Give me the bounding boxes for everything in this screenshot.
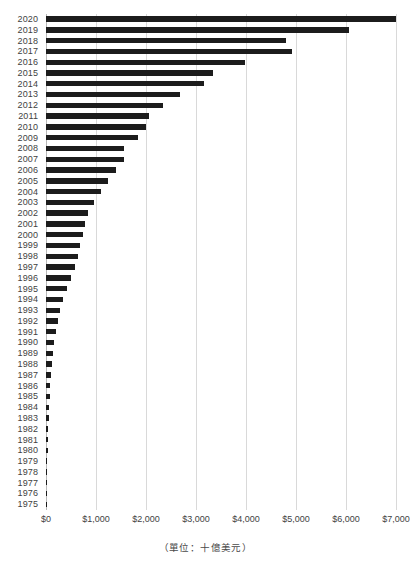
- bar-row: [46, 187, 396, 198]
- y-tick-1978: 1978: [18, 467, 38, 478]
- y-tick-1997: 1997: [18, 262, 38, 273]
- bar-row: [46, 133, 396, 144]
- y-tick-2006: 2006: [18, 165, 38, 176]
- y-tick-2016: 2016: [18, 57, 38, 68]
- y-tick-2015: 2015: [18, 68, 38, 79]
- axis-unit-caption: （單位：十億美元）: [0, 540, 411, 554]
- bar-row: [46, 219, 396, 230]
- y-tick-1991: 1991: [18, 327, 38, 338]
- bar-row: [46, 262, 396, 273]
- y-tick-2008: 2008: [18, 143, 38, 154]
- bar-row: [46, 36, 396, 47]
- y-tick-2000: 2000: [18, 230, 38, 241]
- y-tick-1999: 1999: [18, 240, 38, 251]
- bar-row: [46, 46, 396, 57]
- gridline-7000: [396, 14, 397, 510]
- y-tick-2005: 2005: [18, 176, 38, 187]
- bar-row: [46, 499, 396, 510]
- bar-1996: [46, 275, 71, 280]
- bar-2012: [46, 103, 163, 108]
- y-tick-1995: 1995: [18, 284, 38, 295]
- bar-row: [46, 197, 396, 208]
- y-tick-1989: 1989: [18, 348, 38, 359]
- bar-row: [46, 111, 396, 122]
- bar-1988: [46, 361, 52, 366]
- bar-row: [46, 57, 396, 68]
- bar-row: [46, 79, 396, 90]
- bar-row: [46, 154, 396, 165]
- x-tick-1000: $1,000: [82, 514, 110, 524]
- bar-row: [46, 359, 396, 370]
- x-tick-6000: $6,000: [332, 514, 360, 524]
- y-tick-1981: 1981: [18, 435, 38, 446]
- bar-1998: [46, 254, 78, 259]
- bar-row: [46, 413, 396, 424]
- bar-row: [46, 251, 396, 262]
- bar-row: [46, 402, 396, 413]
- bar-row: [46, 294, 396, 305]
- x-tick-2000: $2,000: [132, 514, 160, 524]
- y-tick-2011: 2011: [18, 111, 38, 122]
- bar-row: [46, 14, 396, 25]
- bar-1986: [46, 383, 50, 388]
- y-tick-2010: 2010: [18, 122, 38, 133]
- y-tick-1996: 1996: [18, 273, 38, 284]
- bar-2017: [46, 49, 292, 54]
- bar-row: [46, 143, 396, 154]
- y-tick-2019: 2019: [18, 25, 38, 36]
- y-tick-1992: 1992: [18, 316, 38, 327]
- bars: [46, 14, 396, 510]
- y-tick-1987: 1987: [18, 370, 38, 381]
- bar-row: [46, 305, 396, 316]
- bar-1978: [46, 469, 47, 474]
- bar-row: [46, 327, 396, 338]
- bar-1984: [46, 405, 49, 410]
- bar-1983: [46, 415, 49, 420]
- bar-1975: [46, 502, 47, 507]
- x-tick-4000: $4,000: [232, 514, 260, 524]
- y-tick-2020: 2020: [18, 14, 38, 25]
- y-tick-2007: 2007: [18, 154, 38, 165]
- y-tick-2014: 2014: [18, 79, 38, 90]
- bar-row: [46, 488, 396, 499]
- bar-row: [46, 348, 396, 359]
- y-tick-1984: 1984: [18, 402, 38, 413]
- bar-2015: [46, 70, 213, 75]
- y-tick-2001: 2001: [18, 219, 38, 230]
- bar-row: [46, 337, 396, 348]
- bar-chart: 2020201920182017201620152014201320122011…: [0, 0, 411, 565]
- y-tick-1975: 1975: [18, 499, 38, 510]
- bar-row: [46, 273, 396, 284]
- bar-2002: [46, 210, 88, 215]
- bar-2006: [46, 167, 116, 172]
- bar-row: [46, 478, 396, 489]
- bar-1989: [46, 351, 53, 356]
- y-tick-2018: 2018: [18, 36, 38, 47]
- y-tick-1982: 1982: [18, 424, 38, 435]
- y-tick-2017: 2017: [18, 46, 38, 57]
- bar-1987: [46, 372, 51, 377]
- bar-row: [46, 467, 396, 478]
- y-tick-1998: 1998: [18, 251, 38, 262]
- bar-1991: [46, 329, 56, 334]
- bar-1994: [46, 297, 63, 302]
- bar-1981: [46, 437, 48, 442]
- bar-1977: [46, 480, 47, 485]
- y-tick-2012: 2012: [18, 100, 38, 111]
- y-tick-2003: 2003: [18, 197, 38, 208]
- bar-1995: [46, 286, 67, 291]
- y-tick-1994: 1994: [18, 294, 38, 305]
- y-tick-1988: 1988: [18, 359, 38, 370]
- bar-2020: [46, 16, 396, 21]
- bar-1982: [46, 426, 48, 431]
- bar-2013: [46, 92, 180, 97]
- bar-1997: [46, 264, 75, 269]
- y-tick-1976: 1976: [18, 488, 38, 499]
- bar-1985: [46, 394, 50, 399]
- bar-row: [46, 445, 396, 456]
- bar-1993: [46, 308, 60, 313]
- y-tick-2013: 2013: [18, 89, 38, 100]
- plot-area: [46, 14, 396, 510]
- y-tick-2002: 2002: [18, 208, 38, 219]
- bar-row: [46, 89, 396, 100]
